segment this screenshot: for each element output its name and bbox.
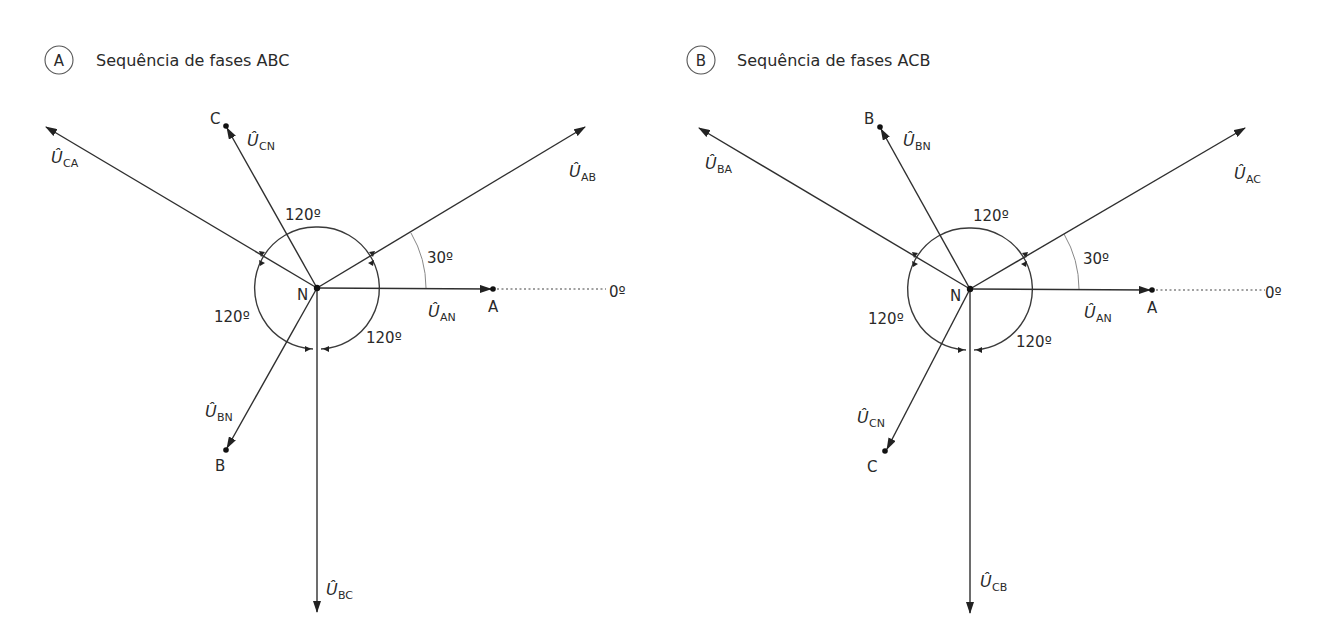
vector-label-u-an: Û AN	[428, 302, 456, 324]
angle-label-120-left: 120º	[868, 310, 904, 328]
badge-label: B	[696, 52, 706, 70]
vector-u-an	[317, 288, 491, 289]
angle-label-120-left: 120º	[214, 308, 250, 326]
phasor-diagrams: A Sequência de fases ABC	[0, 0, 1317, 642]
point-label-b: B	[215, 457, 225, 475]
svg-text:Û: Û	[1084, 303, 1096, 322]
arc-arrow-icon	[958, 347, 964, 353]
vector-label-u-bc: Û BC	[326, 580, 353, 602]
vector-label-u-bn: Û BN	[903, 131, 931, 153]
vector-u-ca	[46, 127, 317, 288]
angle-arc-30	[411, 233, 426, 288]
vector-label-u-ac: Û AC	[1234, 164, 1261, 186]
arc-arrow-icon	[323, 346, 329, 352]
svg-text:Û: Û	[705, 154, 717, 173]
reference-label: 0º	[1265, 284, 1282, 302]
point-label-b: B	[864, 110, 874, 128]
angle-arc-30	[1064, 234, 1079, 289]
svg-text:Û: Û	[980, 572, 992, 591]
svg-text:Û: Û	[428, 302, 440, 321]
phase-point-c	[882, 448, 888, 454]
neutral-label: N	[297, 286, 308, 304]
svg-text:CA: CA	[63, 157, 79, 170]
vector-label-u-cn: Û CN	[247, 131, 275, 153]
arc-arrow-icon	[259, 260, 265, 266]
svg-text:CN: CN	[869, 417, 885, 430]
diagram-b: B Sequência de fases ACB N A B	[687, 46, 1282, 613]
point-label-a: A	[488, 298, 499, 316]
badge-label: A	[54, 52, 65, 70]
svg-text:Û: Û	[326, 580, 338, 599]
point-label-c: C	[867, 458, 877, 476]
phase-point-a	[1149, 287, 1155, 293]
vector-label-u-bn: Û BN	[205, 402, 233, 424]
neutral-point	[314, 285, 320, 291]
vector-u-an	[970, 289, 1150, 290]
arc-arrow-icon	[976, 347, 982, 353]
vector-label-u-ab: Û AB	[569, 162, 596, 184]
phase-point-c	[223, 123, 229, 129]
phase-point-b	[223, 447, 229, 453]
vector-label-u-ca: Û CA	[51, 148, 79, 170]
svg-text:Û: Û	[569, 162, 581, 181]
angle-label-30: 30º	[1083, 250, 1109, 268]
neutral-point	[967, 286, 973, 292]
vector-label-u-cn: Û CN	[857, 408, 885, 430]
svg-text:AC: AC	[1246, 173, 1261, 186]
svg-text:BN: BN	[217, 411, 233, 424]
svg-text:Û: Û	[247, 131, 259, 150]
angle-label-120-top: 120º	[973, 207, 1009, 225]
angle-label-30: 30º	[427, 249, 453, 267]
diagram-title: Sequência de fases ABC	[96, 51, 289, 70]
diagram-title: Sequência de fases ACB	[737, 51, 930, 70]
svg-text:CB: CB	[992, 581, 1007, 594]
phase-point-a	[490, 286, 496, 292]
vector-label-u-ba: Û BA	[705, 154, 733, 176]
angle-label-120-right: 120º	[366, 329, 402, 347]
svg-text:BC: BC	[338, 589, 353, 602]
diagram-b-header: B Sequência de fases ACB	[687, 46, 930, 74]
svg-text:BN: BN	[915, 140, 931, 153]
arc-arrow-icon	[1021, 261, 1027, 267]
diagram-a-header: A Sequência de fases ABC	[45, 46, 289, 74]
vector-label-u-an: Û AN	[1084, 303, 1112, 325]
svg-text:AN: AN	[1096, 312, 1112, 325]
point-label-a: A	[1147, 299, 1158, 317]
vector-u-bn	[881, 129, 970, 289]
diagram-a: A Sequência de fases ABC	[45, 46, 626, 612]
svg-text:Û: Û	[1234, 164, 1246, 183]
svg-text:CN: CN	[259, 140, 275, 153]
angle-label-120-right: 120º	[1016, 333, 1052, 351]
svg-text:Û: Û	[51, 148, 63, 167]
svg-text:Û: Û	[903, 131, 915, 150]
svg-text:Û: Û	[857, 408, 869, 427]
svg-text:Û: Û	[205, 402, 217, 421]
svg-text:AN: AN	[440, 311, 456, 324]
angle-label-120-top: 120º	[285, 206, 321, 224]
arc-arrow-icon	[305, 346, 311, 352]
neutral-label: N	[950, 287, 961, 305]
reference-label: 0º	[609, 283, 626, 301]
vector-label-u-cb: Û CB	[980, 572, 1007, 594]
svg-text:AB: AB	[581, 171, 596, 184]
phase-point-b	[877, 124, 883, 130]
point-label-c: C	[210, 110, 220, 128]
arc-arrow-icon	[368, 260, 374, 266]
arc-arrow-icon	[912, 261, 918, 267]
svg-text:BA: BA	[717, 163, 733, 176]
